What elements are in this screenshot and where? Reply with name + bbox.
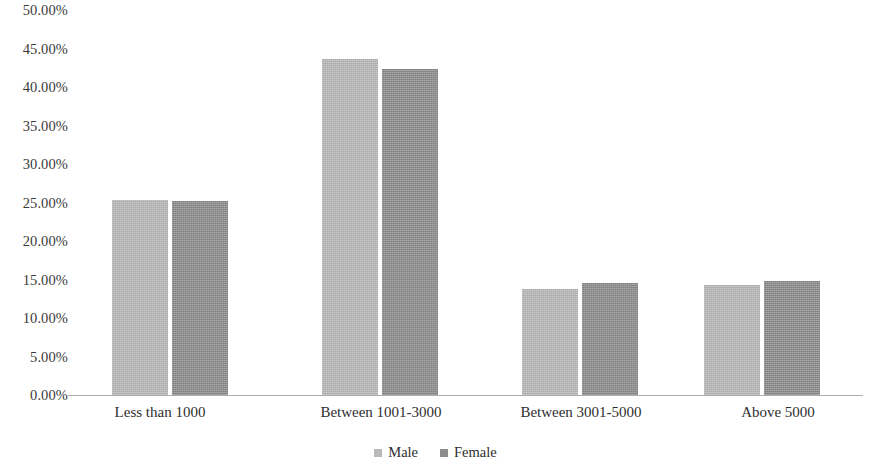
chart-legend: Male Female [0, 440, 871, 465]
x-axis-category-label: Above 5000 [688, 404, 868, 420]
bar-male-1 [322, 59, 378, 395]
x-axis-line [68, 395, 863, 396]
legend-swatch-icon [374, 449, 382, 457]
bar-fill [112, 200, 168, 395]
bar-female-2 [582, 283, 638, 395]
bar-fill [704, 285, 760, 395]
bar-fill [764, 281, 820, 395]
bar-female-3 [764, 281, 820, 395]
x-axis-category-label: Less than 1000 [75, 404, 245, 420]
bar-fill [522, 289, 578, 395]
bar-female-0 [172, 201, 228, 395]
x-axis-category-label: Between 3001-5000 [466, 404, 696, 420]
bar-male-0 [112, 200, 168, 395]
bar-fill [322, 59, 378, 395]
legend-entry-female: Female [440, 445, 497, 460]
plot-area: 50.00% 45.00% 40.00% 35.00% 30.00% 25.00… [0, 0, 871, 400]
bar-fill [382, 69, 438, 395]
legend-label: Male [388, 445, 418, 460]
bar-chart: 50.00% 45.00% 40.00% 35.00% 30.00% 25.00… [0, 0, 871, 465]
legend-swatch-icon [440, 449, 448, 457]
x-axis-category-label: Between 1001-3000 [266, 404, 496, 420]
bars-layer [0, 0, 871, 395]
legend-label: Female [454, 445, 497, 460]
legend-entry-male: Male [374, 445, 418, 460]
bar-male-3 [704, 285, 760, 395]
bar-female-1 [382, 69, 438, 395]
bar-fill [582, 283, 638, 395]
bar-fill [172, 201, 228, 395]
bar-male-2 [522, 289, 578, 395]
